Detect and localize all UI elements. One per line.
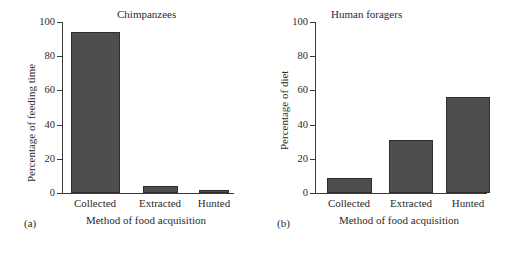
x-axis-title-b: Method of food acquisition [339,215,459,226]
x-category-extracted-b: Extracted [390,198,432,209]
y-tick-label-60-b: 60 [298,85,309,96]
panel-tag-b: (b) [277,218,290,229]
bar-collected-b [327,178,372,193]
bar-extracted-b [389,140,433,193]
x-category-collected-b: Collected [328,198,370,209]
x-category-collected-a: Collected [74,198,116,209]
plot-area-b: 0 20 40 60 80 100 [315,22,483,194]
x-axis-line-b [315,193,487,194]
x-category-hunted-a: Hunted [198,198,230,209]
y-tick-label-20-b: 20 [298,154,309,165]
bar-extracted-a [143,186,178,193]
y-tick-label-0-a: 0 [50,188,55,199]
panel-chimpanzees: Chimpanzees Percentage of feeding time 0… [0,0,253,253]
y-axis-title-b: Percentage of diet [279,71,290,150]
y-axis-line-a [62,22,63,194]
y-tick-label-40-a: 40 [45,119,56,130]
y-tick-label-60-a: 60 [45,85,56,96]
bar-collected-a [71,32,120,193]
x-category-hunted-b: Hunted [452,198,484,209]
figure-two-panel-bar-charts: Chimpanzees Percentage of feeding time 0… [0,0,507,253]
bar-hunted-a [199,190,229,193]
panel-tag-a: (a) [24,218,36,229]
panel-title-a: Chimpanzees [117,9,176,20]
y-axis-line-b [315,22,316,194]
x-axis-line-a [62,193,234,194]
x-axis-title-a: Method of food acquisition [86,215,206,226]
y-tick-label-20-a: 20 [45,154,56,165]
x-category-extracted-a: Extracted [139,198,181,209]
y-tick-label-100-b: 100 [292,17,308,28]
panel-title-b: Human foragers [331,9,402,20]
y-tick-label-40-b: 40 [298,119,309,130]
y-tick-label-80-a: 80 [45,51,56,62]
bar-hunted-b [446,97,490,193]
y-tick-label-80-b: 80 [298,51,309,62]
plot-area-a: 0 20 40 60 80 100 [62,22,230,194]
y-tick-label-0-b: 0 [303,188,308,199]
y-tick-label-100-a: 100 [39,17,55,28]
y-axis-title-a: Percentage of feeding time [26,64,37,182]
panel-human-foragers: Human foragers Percentage of diet 0 20 4… [253,0,506,253]
